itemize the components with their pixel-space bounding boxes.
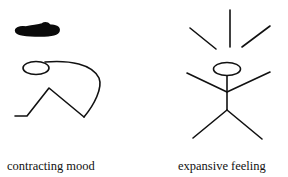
ray-right (242, 26, 270, 47)
contracting-back (45, 62, 100, 117)
ray-left (190, 28, 216, 49)
expansive-leg-left (193, 110, 227, 138)
dark-cloud-icon (16, 23, 60, 36)
contracting-figure (15, 23, 100, 117)
expansive-arm-left (187, 73, 227, 92)
contracting-head (23, 62, 49, 75)
expansive-figure (187, 10, 270, 139)
expansive-leg-right (227, 110, 262, 139)
mood-diagram (0, 0, 288, 177)
expansive-head (214, 63, 241, 76)
caption-expansive-feeling: expansive feeling (178, 160, 266, 173)
caption-contracting-mood: contracting mood (7, 160, 95, 173)
contracting-legs (15, 88, 84, 117)
